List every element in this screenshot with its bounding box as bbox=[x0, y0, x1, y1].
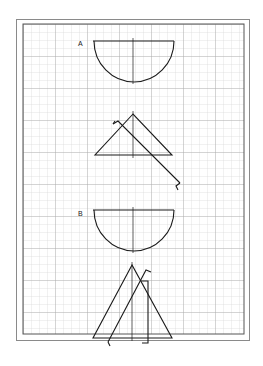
diagram-canvas: A B bbox=[0, 0, 263, 366]
grid-paper bbox=[23, 24, 244, 334]
label-a: A bbox=[78, 40, 83, 47]
label-b: B bbox=[78, 210, 83, 217]
